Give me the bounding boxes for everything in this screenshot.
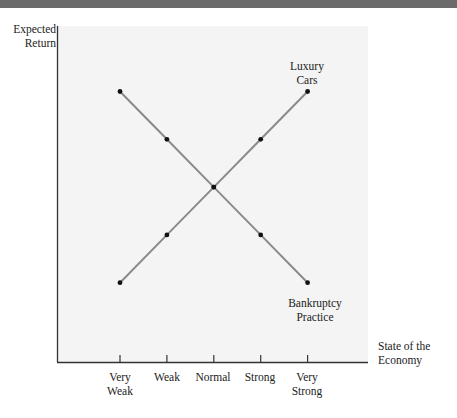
data-point-marker (118, 280, 123, 285)
y-axis-label-line2: Return (25, 36, 56, 50)
data-point-marker (165, 233, 170, 238)
data-point-marker (211, 185, 216, 190)
tick-label-very-weak-line2: Weak (107, 384, 133, 398)
y-axis-label-line1: Expected (13, 22, 56, 36)
series-label-luxury-line2: Cars (296, 73, 317, 87)
data-point-marker (305, 89, 310, 94)
data-point-marker (118, 89, 123, 94)
data-point-marker (165, 137, 170, 142)
tick-label-strong: Strong (245, 370, 276, 384)
x-axis-ticks (120, 355, 308, 362)
series-label-bankruptcy-line1: Bankruptcy (288, 296, 342, 310)
tick-label-very-weak-line1: Very (109, 370, 131, 384)
data-point-marker (258, 137, 263, 142)
x-axis-label-line1: State of the (378, 339, 430, 353)
tick-label-normal: Normal (195, 370, 230, 384)
tick-label-very-strong-line2: Strong (292, 384, 323, 398)
series-label-bankruptcy-line2: Practice (296, 310, 333, 324)
data-point-marker (258, 233, 263, 238)
tick-label-weak: Weak (154, 370, 180, 384)
data-point-marker (305, 280, 310, 285)
series-label-luxury-line1: Luxury (290, 59, 324, 73)
x-axis-label-line2: Economy (378, 353, 422, 367)
tick-label-very-strong-line1: Very (296, 370, 318, 384)
